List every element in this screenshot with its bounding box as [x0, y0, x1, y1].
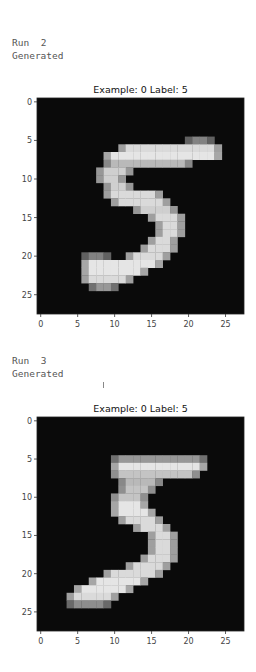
y-tick-label: 5: [27, 455, 32, 464]
x-tick-label: 5: [75, 637, 80, 646]
y-tick-label: 15: [22, 531, 32, 540]
x-tick-label: 0: [38, 637, 43, 646]
y-tick-label: 25: [22, 608, 32, 617]
y-tick-label: 10: [22, 493, 32, 502]
x-tick-label: 10: [110, 637, 120, 646]
y-tick-label: 20: [22, 570, 32, 579]
x-tick-label: 25: [220, 637, 230, 646]
y-tick-label: 0: [27, 417, 32, 426]
axes-2: 05101520250510152025: [0, 0, 256, 672]
x-tick-label: 15: [146, 637, 156, 646]
x-tick-label: 20: [183, 637, 193, 646]
axes-frame: [37, 417, 244, 631]
